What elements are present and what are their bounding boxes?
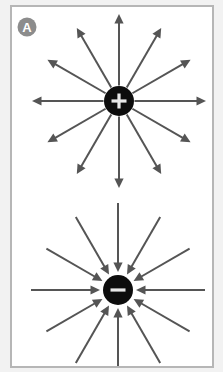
negative-charge-field-line-5 — [127, 306, 160, 363]
negative-charge-field-line-11 — [76, 217, 109, 274]
positive-charge-field-line-2 — [132, 60, 190, 94]
negative-charge-symbol — [103, 275, 133, 305]
positive-charge-field-line-3 — [135, 96, 207, 105]
positive-charge-field-line-4 — [132, 109, 190, 143]
positive-charge-field-line-0 — [114, 14, 123, 86]
diagram-panel: A — [10, 5, 214, 368]
electric-field-diagram: A — [12, 7, 214, 368]
negative-charge-field-line-0 — [113, 203, 122, 272]
negative-charge-field-line-6 — [113, 308, 122, 368]
negative-charge-field-line-3 — [136, 285, 205, 294]
negative-charge-field-line-10 — [46, 249, 102, 281]
negative-charge-field-line-2 — [134, 249, 190, 281]
negative-charge-field-line-7 — [76, 306, 109, 363]
negative-charge-field-line-4 — [134, 299, 190, 331]
negative-charge-field-line-9 — [31, 285, 100, 294]
positive-charge-field-line-8 — [47, 109, 105, 143]
panel-label-badge-text: A — [22, 20, 32, 35]
diagram-page: A — [0, 0, 223, 372]
negative-charge-field-line-1 — [127, 217, 160, 274]
panel-label-badge: A — [18, 18, 37, 37]
negative-charge-field-line-8 — [46, 299, 102, 331]
positive-charge-field-line-6 — [114, 117, 123, 189]
positive-charge-field-line-10 — [47, 60, 105, 94]
positive-charge-field-line-9 — [32, 96, 104, 105]
positive-charge-symbol — [104, 86, 134, 116]
